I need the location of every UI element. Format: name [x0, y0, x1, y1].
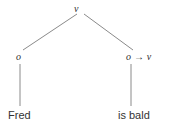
semantic-tree-diagram: v o o → v Fred is bald	[0, 0, 169, 130]
tree-leaf-left-word: Fred	[8, 110, 31, 121]
tree-leaf-right-word: is bald	[118, 110, 150, 121]
tree-node-right-child-type: o → v	[126, 52, 151, 62]
tree-node-root-type: v	[74, 4, 79, 14]
tree-node-left-child-type: o	[16, 52, 21, 62]
edge-root-to-left-child	[23, 14, 77, 50]
edge-root-to-right-child	[84, 14, 133, 50]
